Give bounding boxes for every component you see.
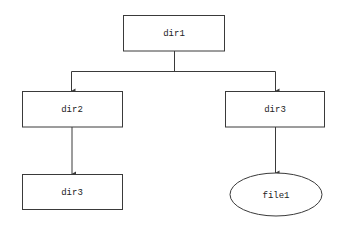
node-dir3-left: dir3 (23, 175, 123, 210)
node-dir1: dir1 (124, 16, 225, 52)
node-file1: file1 (230, 173, 322, 216)
node-dir2-label: dir2 (61, 105, 83, 115)
directory-tree-diagram: dir1 dir2 dir3 dir3 file1 (0, 0, 344, 233)
node-dir2: dir2 (23, 92, 123, 128)
node-dir3-right: dir3 (226, 92, 325, 128)
node-file1-label: file1 (262, 191, 289, 201)
node-dir3-right-label: dir3 (264, 105, 286, 115)
node-dir1-label: dir1 (163, 29, 185, 39)
node-dir3-left-label: dir3 (61, 188, 83, 198)
